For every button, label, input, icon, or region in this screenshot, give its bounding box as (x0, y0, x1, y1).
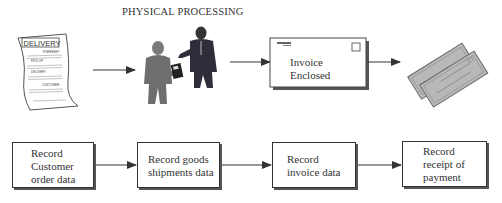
box-line: Customer (31, 160, 75, 173)
box-line: Record (31, 147, 75, 160)
box-line: payment (423, 171, 465, 184)
people-handover-icon (144, 27, 217, 105)
checks-icon (408, 43, 488, 107)
box-line: Record goods (148, 153, 214, 166)
svg-text:CUSTOMER :: CUSTOMER : (42, 83, 61, 87)
box-line: Record (423, 145, 465, 158)
envelope-line-1: Invoice (290, 56, 330, 69)
svg-text:DELIVERY: DELIVERY (24, 39, 61, 48)
envelope-line-2: Enclosed (290, 69, 330, 82)
box-line: receipt of (423, 158, 465, 171)
box-line: invoice data (287, 166, 340, 179)
record-customer-order-box: Record Customer order data (12, 142, 94, 188)
box-line: order data (31, 173, 75, 186)
box-line: shipments data (148, 166, 214, 179)
svg-text:PICK UP :: PICK UP : (31, 59, 45, 63)
record-goods-shipments-box: Record goods shipments data (137, 142, 220, 188)
record-payment-box: Record receipt of payment (402, 141, 487, 187)
delivery-document-icon: DELIVERY P.NEREBEY PICK UP : DELIVERY : … (18, 34, 78, 110)
envelope-label: Invoice Enclosed (290, 56, 330, 82)
svg-text:P.NEREBEY: P.NEREBEY (43, 50, 60, 54)
record-invoice-box: Record invoice data (272, 142, 356, 188)
box-line: Record (287, 153, 340, 166)
svg-text:DELIVERY :: DELIVERY : (31, 70, 48, 74)
